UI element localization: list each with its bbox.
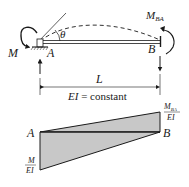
label-M-over-EI: M EI xyxy=(25,156,36,175)
moment-diagram-top-region xyxy=(40,112,160,132)
svg-text:M: M xyxy=(27,156,36,165)
moment-MBA-arrow-icon xyxy=(162,30,174,54)
label-MBA-over-EI: MBA EI xyxy=(163,102,180,122)
label-L: L xyxy=(95,72,103,86)
svg-text:MBA: MBA xyxy=(163,102,178,112)
diagram-label-A: A xyxy=(26,126,35,140)
moment-M-arrow-icon xyxy=(21,27,37,47)
label-MBA: MBA xyxy=(145,9,164,23)
svg-text:EI: EI xyxy=(25,166,34,175)
moment-diagram xyxy=(40,112,160,170)
label-theta: θ xyxy=(60,28,66,40)
label-M: M xyxy=(7,46,19,60)
svg-text:EI: EI xyxy=(166,113,175,122)
label-EI-constant: EI = constant xyxy=(67,90,127,102)
diagram-label-B: B xyxy=(163,126,171,140)
moment-MBA-arrowhead-icon xyxy=(160,26,165,32)
deflected-shape-curve xyxy=(40,25,160,41)
label-A: A xyxy=(46,46,55,60)
beam-figure: M A B θ MBA L EI = constant A B MBA EI M… xyxy=(0,0,189,187)
moment-diagram-bottom-region xyxy=(40,132,160,170)
label-B: B xyxy=(148,42,156,56)
beam xyxy=(40,41,160,44)
